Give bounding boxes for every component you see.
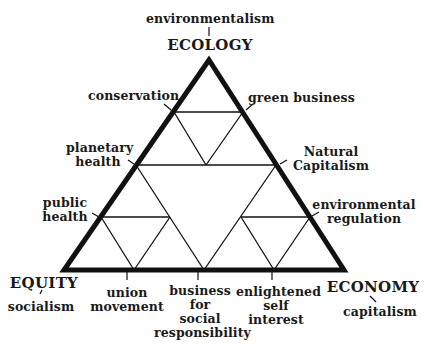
label-conservation: conservation	[88, 89, 178, 103]
label-line: responsibility	[154, 326, 246, 340]
label-line: union	[90, 286, 164, 300]
label-line: health	[66, 155, 130, 169]
label-line: Natural	[290, 145, 372, 159]
ideology-capitalism: capitalism	[340, 305, 420, 319]
label-union-movement: union movement	[90, 286, 164, 314]
ideology-socialism: socialism	[6, 300, 76, 314]
label-line: interest	[236, 313, 316, 327]
vertex-ecology: ECOLOGY	[160, 38, 260, 52]
label-business-social-responsibility: business for social responsibility	[154, 284, 246, 340]
label-line: enlightened	[236, 285, 316, 299]
label-green-business: green business	[248, 91, 348, 105]
vertex-equity: EQUITY	[8, 276, 80, 290]
label-line: self	[236, 299, 316, 313]
label-natural-capitalism: Natural Capitalism	[290, 145, 372, 173]
label-line: business	[154, 284, 246, 298]
label-line: regulation	[312, 212, 416, 226]
vertex-economy: ECONOMY	[326, 280, 420, 294]
label-line: environmental	[312, 198, 416, 212]
inner-triangles	[101, 112, 310, 270]
label-line: planetary	[66, 141, 130, 155]
ideology-environmentalism: environmentalism	[146, 12, 272, 26]
label-line: public	[42, 196, 88, 210]
label-line: movement	[90, 300, 164, 314]
label-line: social	[154, 312, 246, 326]
label-planetary-health: planetary health	[66, 141, 130, 169]
label-line: health	[42, 210, 88, 224]
label-public-health: public health	[42, 196, 88, 224]
label-line: Capitalism	[290, 159, 372, 173]
label-enlightened-self-interest: enlightened self interest	[236, 285, 316, 327]
label-line: for	[154, 298, 246, 312]
label-environmental-regulation: environmental regulation	[312, 198, 416, 226]
